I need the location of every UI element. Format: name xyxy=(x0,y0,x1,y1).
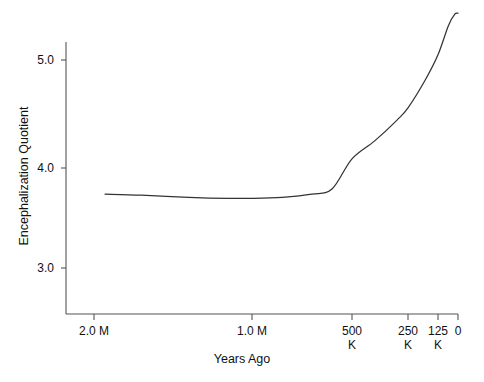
x-tick-label-1m: 1.0 M xyxy=(237,325,267,338)
x-tick-unit-125k: K xyxy=(434,339,442,352)
x-axis-title: Years Ago xyxy=(214,352,271,366)
x-tick-label-0: 0 xyxy=(455,325,462,338)
x-tick-marks xyxy=(94,314,458,320)
x-tick-unit-250k: K xyxy=(404,339,412,352)
x-tick-label-2m: 2.0 M xyxy=(79,325,109,338)
chart-container: 5.0 4.0 3.0 2.0 M 1.0 M 500 250 125 0 K … xyxy=(0,0,484,382)
x-tick-label-250: 250 xyxy=(398,325,418,338)
x-tick-unit-500k: K xyxy=(348,339,356,352)
x-tick-label-500: 500 xyxy=(342,325,362,338)
eq-trend-line xyxy=(105,13,458,198)
y-tick-marks xyxy=(61,60,66,268)
y-axis-title: Encephalization Quotient xyxy=(17,76,31,276)
y-tick-label-5: 5.0 xyxy=(16,54,54,67)
x-tick-label-125: 125 xyxy=(428,325,448,338)
axis-lines xyxy=(66,42,458,314)
